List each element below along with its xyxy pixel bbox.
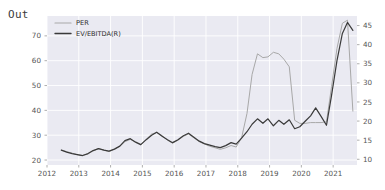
svg-text:30: 30	[363, 78, 373, 87]
svg-text:10: 10	[363, 155, 373, 164]
svg-text:2021: 2021	[324, 169, 342, 178]
svg-text:30: 30	[32, 131, 42, 140]
left-axis-tick-labels: 203040506070	[32, 31, 47, 164]
svg-text:20: 20	[363, 117, 373, 126]
svg-text:2012: 2012	[38, 169, 56, 178]
right-axis-tick-labels: 1015202530354045	[357, 21, 373, 164]
axis-labels-layer: 2012201320142015201620172018201920202021…	[0, 0, 385, 190]
svg-text:35: 35	[363, 59, 372, 68]
svg-text:2017: 2017	[197, 169, 215, 178]
svg-text:2019: 2019	[260, 169, 279, 178]
svg-text:2020: 2020	[292, 169, 311, 178]
chart-output-cell: Out PEREV/EBITDA(R) 20122013201420152016…	[0, 0, 385, 190]
svg-text:15: 15	[363, 136, 372, 145]
svg-text:40: 40	[32, 106, 42, 115]
svg-text:2015: 2015	[133, 169, 151, 178]
svg-text:2013: 2013	[70, 169, 88, 178]
svg-text:50: 50	[32, 81, 42, 90]
svg-text:70: 70	[32, 31, 42, 40]
svg-text:45: 45	[363, 21, 372, 30]
svg-text:2018: 2018	[229, 169, 248, 178]
svg-text:60: 60	[32, 56, 42, 65]
x-axis-tick-labels: 2012201320142015201620172018201920202021	[38, 165, 342, 178]
svg-text:20: 20	[32, 156, 42, 165]
svg-text:2016: 2016	[165, 169, 184, 178]
svg-text:25: 25	[363, 98, 372, 107]
svg-text:40: 40	[363, 40, 373, 49]
svg-text:2014: 2014	[101, 169, 120, 178]
